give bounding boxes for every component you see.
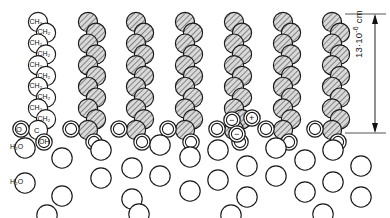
water-molecule <box>91 140 111 160</box>
ion-negative-2-inner <box>231 128 242 139</box>
water-molecule <box>52 186 72 206</box>
water-molecule <box>180 147 200 167</box>
water-molecule <box>221 205 241 218</box>
water-molecule <box>323 172 343 192</box>
water-molecule <box>266 166 286 186</box>
head-hydroxyl-inner <box>136 136 147 147</box>
dimension-label: 13·10-6 cm <box>352 0 364 58</box>
head-oxygen-inner <box>260 123 271 134</box>
head-oxygen-inner <box>65 123 76 134</box>
head-oxygen-inner <box>15 123 26 134</box>
dimension-value: 13 <box>353 47 364 58</box>
water-molecule <box>351 187 371 207</box>
water-molecule <box>323 140 343 160</box>
monolayer-diagram <box>0 0 390 218</box>
water-molecule <box>180 181 200 201</box>
water-molecule <box>150 135 170 155</box>
head-oxygen-inner <box>162 123 173 134</box>
water-molecule <box>295 150 315 170</box>
ion-negative-inner <box>226 114 237 125</box>
water-molecule <box>37 205 57 218</box>
head-oxygen-inner <box>211 123 222 134</box>
dimension-exponent: -6 <box>352 26 359 33</box>
water-molecule <box>122 158 142 178</box>
water-molecule <box>237 187 257 207</box>
water-molecule <box>150 166 170 186</box>
water-molecule <box>208 140 228 160</box>
dimension-base: 10 <box>353 33 364 44</box>
head-hydroxyl-inner <box>185 136 196 147</box>
water-molecule <box>208 170 228 190</box>
dimension-separator: · <box>353 44 364 47</box>
water-molecule <box>91 168 111 188</box>
water-molecule <box>15 138 35 158</box>
water-molecule <box>295 182 315 202</box>
water-molecule <box>266 138 286 158</box>
figure-canvas: 13·10-6 cm CH₃CH₂CH₂CH₂CH₂CH₂CH₂CH₂CH₂CH… <box>0 0 390 218</box>
ion-positive-inner <box>246 112 257 123</box>
dimension-unit: cm <box>353 10 364 23</box>
head-oxygen-inner <box>113 123 124 134</box>
water-molecule <box>351 156 371 176</box>
water-molecule <box>52 148 72 168</box>
head-oxygen-inner <box>309 123 320 134</box>
water-molecule <box>15 173 35 193</box>
water-molecule <box>237 156 257 176</box>
water-subphase <box>15 135 371 218</box>
hydrocarbon-chains <box>28 12 349 128</box>
head-hydroxyl-inner <box>38 136 49 147</box>
water-molecule <box>313 204 333 218</box>
